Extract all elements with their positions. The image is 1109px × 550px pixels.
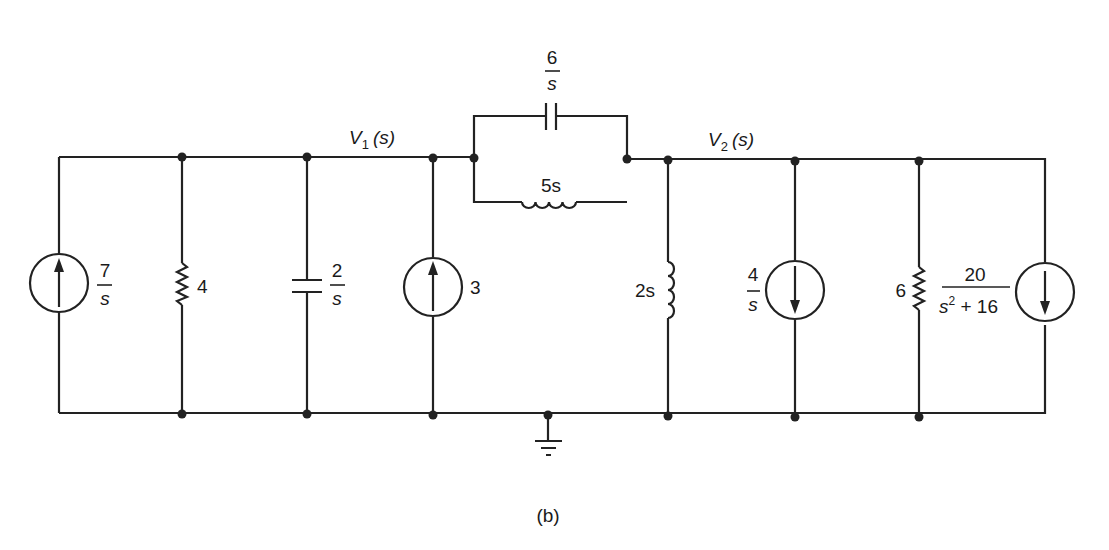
label-source-left: 7 s — [97, 260, 112, 309]
current-source-3-icon — [404, 258, 462, 316]
series-cap-wire — [474, 116, 627, 159]
label-source-4s: 4 s — [747, 264, 760, 315]
ground-icon — [535, 441, 562, 455]
resistor-4-icon — [177, 263, 187, 305]
junction-dot — [429, 154, 438, 163]
current-source-20-icon — [1016, 263, 1074, 321]
label-resistor-4: 4 — [197, 276, 208, 297]
junction-dot — [178, 153, 187, 162]
label-source-20: 20 s2 + 16 — [939, 264, 1010, 317]
label-inductor-2s: 2s — [635, 280, 655, 301]
inductor-2s-icon — [668, 262, 674, 318]
label-series-inductor: 5s — [541, 175, 561, 196]
junction-dot — [429, 411, 438, 420]
label-series-capacitor: 6 s — [545, 47, 560, 94]
series-capacitor-icon — [546, 103, 556, 130]
svg-text:s2 + 16: s2 + 16 — [939, 294, 998, 317]
label-v2: V2(s) — [708, 129, 754, 154]
junction-dot — [664, 412, 673, 421]
junction-dot — [915, 413, 924, 422]
svg-text:20: 20 — [964, 264, 985, 285]
label-capacitor-2s: 2 s — [330, 260, 345, 309]
svg-text:2: 2 — [332, 260, 343, 281]
resistor-6-icon — [914, 267, 924, 310]
junction-dot — [623, 155, 632, 164]
junction-dot — [544, 411, 553, 420]
label-resistor-6: 6 — [895, 280, 906, 301]
junction-dot — [791, 157, 800, 166]
svg-text:6: 6 — [547, 47, 558, 68]
svg-text:s: s — [547, 73, 557, 94]
bottom-rail — [59, 325, 1045, 413]
junction-dot — [303, 410, 312, 419]
junction-dot — [470, 154, 479, 163]
junction-dot — [178, 410, 187, 419]
current-source-4s-icon — [766, 261, 824, 319]
current-source-left-icon — [30, 254, 88, 312]
svg-text:7: 7 — [100, 260, 111, 281]
junction-dot — [303, 153, 312, 162]
figure-caption: (b) — [536, 505, 559, 526]
series-inductor-icon — [522, 202, 576, 208]
junction-dot — [791, 413, 800, 422]
junction-dot — [915, 157, 924, 166]
label-v1: V1(s) — [349, 127, 395, 152]
svg-text:4: 4 — [748, 264, 759, 285]
svg-text:s: s — [332, 288, 342, 309]
svg-text:s: s — [100, 288, 110, 309]
label-source-3: 3 — [470, 277, 481, 298]
circuit-diagram: 7 s 4 2 s 3 V1(s) V2(s) 6 s 5s 2s 4 s 6 … — [0, 0, 1109, 550]
capacitor-2s-icon — [292, 280, 322, 292]
top-rail-v2 — [627, 159, 1045, 262]
junction-dot — [664, 156, 673, 165]
svg-text:s: s — [748, 294, 758, 315]
